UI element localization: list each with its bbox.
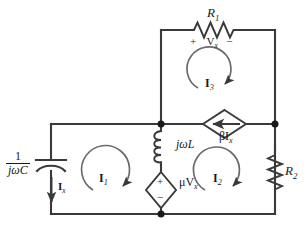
resistor-r2-label: R2 <box>285 164 297 180</box>
resistor-r1-voltage-label: + Vx − <box>190 36 233 50</box>
dependent-voltage-source-label: μVx <box>179 176 198 192</box>
junction-nodes <box>158 121 279 218</box>
node-bottom-middle <box>158 211 165 218</box>
mesh-current-i3-label: I3 <box>205 77 214 93</box>
dependent-voltage-source-minus: − <box>157 192 163 203</box>
dependent-current-source-label: βIx <box>219 130 233 146</box>
current-ix-label: Ix <box>58 181 66 195</box>
mesh-current-i2-label: I2 <box>213 172 222 188</box>
circuit-diagram: R1 + Vx − I3 βIx jωL 1 jωC Ix I1 I2 μV <box>0 0 308 235</box>
capacitor-label: 1 jωC <box>6 150 30 176</box>
resistor-r1-label: R1 <box>207 6 219 22</box>
inductor-label: jωL <box>176 138 194 150</box>
dependent-voltage-source-plus: + <box>157 176 163 187</box>
node-middle-top <box>158 121 165 128</box>
node-right <box>272 121 279 128</box>
circuit-canvas <box>0 0 308 235</box>
mesh-current-i1-label: I1 <box>99 172 108 188</box>
inductor-coil <box>154 131 161 163</box>
